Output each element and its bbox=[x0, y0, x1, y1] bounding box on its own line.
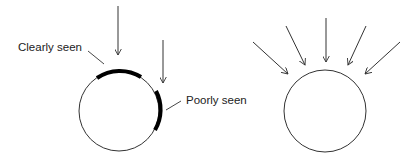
poorly-seen-label: Poorly seen bbox=[186, 94, 247, 106]
poorly-seen-leader bbox=[166, 101, 181, 110]
right-panel bbox=[253, 18, 400, 152]
arrow-diagonal-icon bbox=[286, 26, 305, 65]
poorly-seen-arc bbox=[155, 91, 161, 130]
right-sphere bbox=[284, 70, 366, 152]
arrow-diagonal-icon bbox=[253, 42, 288, 74]
illumination-diagram: Clearly seen Poorly seen bbox=[0, 0, 416, 161]
left-panel: Clearly seen Poorly seen bbox=[18, 6, 247, 151]
clearly-seen-arc bbox=[97, 71, 141, 78]
arrow-diagonal-icon bbox=[348, 26, 366, 65]
arrow-diagonal-icon bbox=[365, 42, 400, 74]
left-sphere bbox=[79, 71, 159, 151]
clearly-seen-label: Clearly seen bbox=[18, 41, 82, 53]
clearly-seen-leader bbox=[88, 51, 104, 64]
